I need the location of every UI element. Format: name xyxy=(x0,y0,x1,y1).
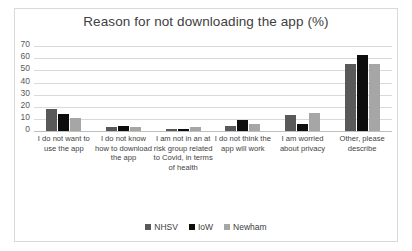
y-axis-tick-label: 60 xyxy=(2,52,30,61)
y-axis-tick-label: 20 xyxy=(2,101,30,110)
bar-newham[interactable] xyxy=(369,64,380,131)
chart-container: Reason for not downloading the app (%) 7… xyxy=(0,0,412,251)
bar-iow[interactable] xyxy=(178,129,189,131)
chart-legend: NHSVIoWNewham xyxy=(14,222,398,232)
bar-nhsv[interactable] xyxy=(166,129,177,131)
y-axis-tick-label: 10 xyxy=(2,113,30,122)
category-label: I am not in an at risk group related to … xyxy=(153,134,213,172)
bar-nhsv[interactable] xyxy=(46,109,57,131)
category-label: I am worried about privacy xyxy=(273,134,333,153)
bar-group xyxy=(332,46,392,131)
bars-layer xyxy=(34,46,392,131)
legend-item-newham[interactable]: Newham xyxy=(224,222,267,232)
category-label: I do not know how to download the app xyxy=(94,134,154,163)
y-axis-tick-label: 0 xyxy=(2,125,30,134)
legend-label: Newham xyxy=(233,222,267,232)
legend-item-iow[interactable]: IoW xyxy=(189,222,213,232)
bar-iow[interactable] xyxy=(357,55,368,132)
legend-swatch-icon xyxy=(224,224,230,230)
legend-swatch-icon xyxy=(189,224,195,230)
bar-group xyxy=(213,46,273,131)
chart-title: Reason for not downloading the app (%) xyxy=(14,14,398,29)
bar-nhsv[interactable] xyxy=(345,64,356,131)
legend-swatch-icon xyxy=(145,224,151,230)
y-axis-tick-label: 50 xyxy=(2,64,30,73)
bar-newham[interactable] xyxy=(70,118,81,131)
bar-group xyxy=(153,46,213,131)
legend-item-nhsv[interactable]: NHSV xyxy=(145,222,178,232)
bar-iow[interactable] xyxy=(237,120,248,131)
bar-newham[interactable] xyxy=(249,124,260,131)
bar-group xyxy=(34,46,94,131)
bar-newham[interactable] xyxy=(190,127,201,131)
x-axis-category-labels: I do not want to use the appI do not kno… xyxy=(34,134,392,214)
y-axis-tick-label: 70 xyxy=(2,40,30,49)
bar-group xyxy=(273,46,333,131)
category-label: Other, please describe xyxy=(332,134,392,153)
legend-label: NHSV xyxy=(154,222,178,232)
bar-iow[interactable] xyxy=(58,114,69,131)
category-label: I do not think the app will work xyxy=(213,134,273,153)
y-axis-tick-label: 40 xyxy=(2,77,30,86)
bar-newham[interactable] xyxy=(309,113,320,131)
legend-label: IoW xyxy=(198,222,213,232)
y-axis: 706050403020100 xyxy=(0,40,30,138)
bar-nhsv[interactable] xyxy=(225,126,236,131)
category-label: I do not want to use the app xyxy=(34,134,94,153)
bar-iow[interactable] xyxy=(118,126,129,131)
bar-group xyxy=(94,46,154,131)
bar-nhsv[interactable] xyxy=(106,127,117,131)
bar-newham[interactable] xyxy=(130,127,141,131)
bar-nhsv[interactable] xyxy=(285,115,296,131)
bar-iow[interactable] xyxy=(297,124,308,131)
x-axis-line xyxy=(34,131,392,132)
y-axis-tick-label: 30 xyxy=(2,89,30,98)
